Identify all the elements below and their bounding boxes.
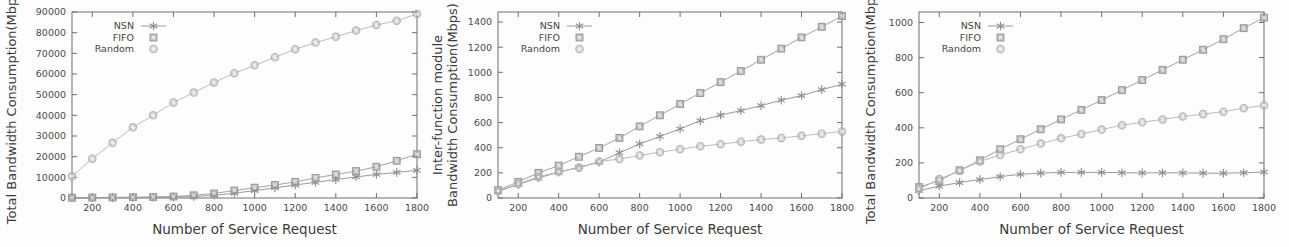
data-point-fifo bbox=[1159, 67, 1166, 74]
legend-label-random: Random bbox=[95, 43, 134, 54]
y-tick-label: 1000 bbox=[889, 17, 913, 28]
data-point-random bbox=[292, 46, 299, 53]
legend-label-fifo: FIFO bbox=[538, 32, 559, 43]
data-point-random bbox=[777, 134, 784, 141]
data-point-fifo bbox=[595, 145, 602, 152]
y-tick-label: 200 bbox=[895, 157, 913, 168]
data-point-fifo bbox=[1038, 126, 1045, 133]
legend-marker-random bbox=[575, 45, 582, 52]
legend-label-random: Random bbox=[942, 43, 981, 54]
y-tick-label: 800 bbox=[473, 92, 491, 103]
x-axis-title: Number of Service Request bbox=[999, 221, 1184, 237]
series-line-nsn bbox=[498, 84, 842, 191]
x-tick-label: 600 bbox=[590, 202, 608, 213]
y-tick-label: 1200 bbox=[467, 42, 491, 53]
legend-label-fifo: FIFO bbox=[960, 32, 981, 43]
data-point-random bbox=[332, 33, 339, 40]
data-point-random bbox=[231, 69, 238, 76]
data-point-nsn bbox=[757, 101, 764, 110]
data-point-random bbox=[818, 130, 825, 137]
data-point-fifo bbox=[1078, 107, 1085, 114]
y-tick-label: 10000 bbox=[36, 172, 66, 183]
data-point-fifo bbox=[1119, 87, 1126, 94]
legend-marker-fifo bbox=[576, 34, 583, 41]
data-point-random bbox=[1139, 118, 1146, 125]
data-point-random bbox=[251, 62, 258, 69]
data-point-fifo bbox=[838, 13, 845, 20]
data-point-random bbox=[575, 164, 582, 171]
x-tick-label: 800 bbox=[630, 202, 648, 213]
y-tick-label: 90000 bbox=[36, 6, 66, 17]
y-tick-label: 400 bbox=[473, 142, 491, 153]
y-axis-title: Total Bandwidth Consumption(Mbps) bbox=[4, 0, 19, 225]
data-point-random bbox=[68, 173, 75, 180]
y-tick-label: 60000 bbox=[36, 68, 66, 79]
y-tick-label: 1000 bbox=[467, 67, 491, 78]
data-point-nsn bbox=[818, 85, 825, 94]
data-point-random bbox=[413, 10, 420, 17]
data-point-fifo bbox=[1240, 25, 1247, 32]
x-tick-label: 1800 bbox=[405, 202, 429, 213]
y-tick-label: 50000 bbox=[36, 89, 66, 100]
y-tick-label: 400 bbox=[895, 122, 913, 133]
data-point-fifo bbox=[1180, 56, 1187, 63]
data-point-random bbox=[1078, 130, 1085, 137]
data-point-nsn bbox=[696, 116, 703, 125]
x-tick-label: 800 bbox=[205, 202, 223, 213]
data-point-fifo bbox=[1220, 36, 1227, 43]
y-tick-label: 20000 bbox=[36, 151, 66, 162]
data-point-random bbox=[656, 148, 663, 155]
x-tick-label: 400 bbox=[971, 202, 989, 213]
data-point-random bbox=[1017, 146, 1024, 153]
data-point-random bbox=[737, 138, 744, 145]
legend-marker-random bbox=[150, 45, 157, 52]
data-point-random bbox=[190, 89, 197, 96]
y-tick-label: 600 bbox=[895, 87, 913, 98]
data-point-random bbox=[915, 186, 922, 193]
data-point-random bbox=[1159, 116, 1166, 123]
x-tick-label: 1400 bbox=[1171, 202, 1195, 213]
data-point-random bbox=[615, 155, 622, 162]
data-point-random bbox=[129, 124, 136, 131]
data-point-random bbox=[757, 136, 764, 143]
data-point-random bbox=[373, 21, 380, 28]
y-axis-title: Bandwidth Consumption(Mbps) bbox=[445, 3, 460, 207]
data-point-fifo bbox=[353, 168, 360, 175]
data-point-fifo bbox=[1017, 136, 1024, 143]
data-point-nsn bbox=[676, 125, 683, 134]
x-tick-label: 600 bbox=[1012, 202, 1030, 213]
data-point-fifo bbox=[1139, 77, 1146, 84]
data-point-fifo bbox=[717, 79, 724, 86]
data-point-fifo bbox=[89, 194, 96, 201]
legend-marker-fifo bbox=[150, 34, 157, 41]
x-tick-label: 200 bbox=[83, 202, 101, 213]
data-point-random bbox=[1098, 126, 1105, 133]
data-point-nsn bbox=[636, 140, 643, 149]
data-point-fifo bbox=[697, 90, 704, 97]
data-point-fifo bbox=[1098, 97, 1105, 104]
data-point-random bbox=[312, 39, 319, 46]
data-point-random bbox=[1179, 113, 1186, 120]
x-tick-label: 1600 bbox=[364, 202, 388, 213]
series-line-nsn bbox=[72, 170, 417, 197]
data-point-random bbox=[676, 146, 683, 153]
x-tick-label: 1200 bbox=[708, 202, 732, 213]
data-point-random bbox=[514, 180, 521, 187]
data-point-fifo bbox=[332, 171, 339, 178]
y-tick-label: 200 bbox=[473, 167, 491, 178]
data-point-fifo bbox=[737, 68, 744, 75]
data-point-fifo bbox=[757, 56, 764, 63]
y-tick-label: 30000 bbox=[36, 130, 66, 141]
x-tick-label: 400 bbox=[549, 202, 567, 213]
x-tick-label: 1800 bbox=[1252, 202, 1276, 213]
legend-label-nsn: NSN bbox=[961, 20, 981, 31]
data-point-nsn bbox=[777, 96, 784, 105]
legend-marker-random bbox=[997, 45, 1004, 52]
x-tick-label: 1600 bbox=[1212, 202, 1236, 213]
y-tick-label: 1400 bbox=[467, 16, 491, 27]
data-point-nsn bbox=[737, 106, 744, 115]
y-tick-label: 80000 bbox=[36, 27, 66, 38]
x-tick-label: 1000 bbox=[243, 202, 267, 213]
legend-label-fifo: FIFO bbox=[113, 32, 134, 43]
legend-label-nsn: NSN bbox=[539, 20, 559, 31]
